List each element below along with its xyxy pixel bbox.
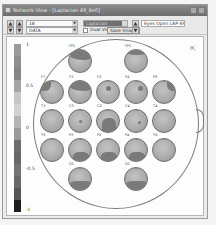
activation-region — [138, 121, 141, 124]
map-panel: 1 0.5 0 -0.5 -1 ⇱ FP1FP2F7F3FZF4F8T3C3CZ… — [6, 36, 204, 216]
nose-marker — [79, 167, 83, 169]
electrode-label: F4 — [125, 75, 129, 79]
electrode-label: T4 — [153, 104, 157, 108]
electrode-label: P4 — [125, 133, 129, 137]
topomap-c3[interactable] — [68, 109, 92, 133]
window-title: Network View - [Laplacian 49_9e0] — [13, 5, 100, 16]
topomap-t5[interactable] — [40, 138, 64, 162]
title-bar: Network View - [Laplacian 49_9e0] — [3, 5, 207, 16]
color-scale-segment — [14, 164, 21, 176]
data-combo[interactable]: DATA ▼ — [26, 27, 78, 34]
tick-label: 0.5 — [26, 83, 33, 88]
nose-marker — [135, 167, 139, 169]
down-arrow-icon[interactable]: ▼ — [132, 27, 139, 34]
activation-region — [106, 86, 111, 91]
info-display: Eyes Open LAP 49_9e0 — [141, 20, 185, 27]
topomap-fz[interactable] — [96, 80, 120, 104]
color-scale-segment — [14, 140, 21, 152]
ear-outline — [196, 109, 204, 133]
topomap-t6[interactable] — [152, 138, 176, 162]
topomap-o2[interactable] — [124, 167, 148, 191]
electrode-label: C4 — [125, 104, 130, 108]
electrode-label: O2 — [125, 162, 130, 166]
down-small-arrow-icon[interactable]: ▼ — [7, 27, 14, 34]
color-scale-segment — [14, 92, 21, 104]
close-button[interactable] — [198, 7, 205, 14]
up-small-arrow-icon[interactable]: ▲ — [7, 20, 14, 27]
electrode-label: F7 — [41, 75, 45, 79]
topomap-fp2[interactable] — [124, 49, 148, 73]
chevron-down-icon[interactable]: ▼ — [122, 21, 127, 26]
color-scale-bar — [14, 44, 21, 212]
electrode-label: P3 — [69, 133, 73, 137]
electrode-label: T5 — [41, 133, 45, 137]
electrode-label: FP1 — [69, 44, 75, 48]
activation-region — [101, 152, 117, 162]
electrode-label: F3 — [69, 75, 73, 79]
topomap-c4[interactable] — [124, 109, 148, 133]
tick-label: 1 — [26, 42, 29, 47]
topomap-f8[interactable] — [152, 80, 176, 104]
up-arrow-icon[interactable]: ▲ — [132, 20, 139, 27]
tick-label: -1 — [26, 207, 31, 212]
color-scale-segment — [14, 128, 21, 140]
activation-region — [69, 81, 92, 91]
nose-marker — [51, 138, 55, 140]
dual-view-checkbox[interactable] — [83, 28, 88, 33]
electrode-label: FP2 — [125, 44, 131, 48]
color-scale-segment — [14, 116, 21, 128]
activation-region — [138, 86, 143, 91]
color-scale-segment — [14, 200, 21, 212]
electrode-label: F8 — [153, 75, 157, 79]
topomap-p3[interactable] — [68, 138, 92, 162]
tick-label: -0.5 — [26, 166, 35, 171]
activation-region — [79, 120, 82, 123]
nose-marker — [107, 80, 111, 82]
topomap-t3[interactable] — [40, 109, 64, 133]
topomap-t4[interactable] — [152, 109, 176, 133]
nose-marker — [135, 80, 139, 82]
tick-label: 0 — [26, 125, 29, 130]
color-scale-segment — [14, 152, 21, 164]
minimize-button[interactable] — [190, 7, 197, 14]
app-icon — [5, 7, 11, 13]
down-arrow-icon[interactable]: ▼ — [16, 27, 23, 34]
chevron-down-icon[interactable]: ▼ — [72, 21, 77, 26]
nose-marker — [135, 138, 139, 140]
nose-marker — [163, 109, 167, 111]
topomap-pz[interactable] — [96, 138, 120, 162]
topomap-o1[interactable] — [68, 167, 92, 191]
color-scale-segment — [14, 104, 21, 116]
up-arrow-icon[interactable]: ▲ — [16, 20, 23, 27]
activation-region — [73, 152, 89, 162]
activation-region — [102, 118, 116, 133]
nose-marker — [51, 109, 55, 111]
color-scale-segment — [14, 176, 21, 188]
topomap-f3[interactable] — [68, 80, 92, 104]
topomap-p4[interactable] — [124, 138, 148, 162]
color-scale-segment — [14, 44, 21, 56]
color-scale-segment — [14, 68, 21, 80]
electrode-label: PZ — [97, 133, 102, 137]
chevron-down-icon[interactable]: ▼ — [72, 28, 77, 33]
toolbar: ▲ ▼ ▲ ▼ 18 ▼ DATA ▼ Laplacian ▼ Dual Vie… — [3, 16, 207, 35]
topomap-fp1[interactable] — [68, 49, 92, 73]
activation-region — [126, 181, 148, 191]
nose-marker — [79, 109, 83, 111]
topomap-f4[interactable] — [124, 80, 148, 104]
montage-combo[interactable]: Laplacian ▼ — [83, 20, 128, 27]
channel-combo[interactable]: 18 ▼ — [26, 20, 78, 27]
activation-region — [127, 50, 147, 55]
activation-region — [41, 81, 51, 91]
nose-marker — [51, 80, 55, 82]
electrode-label: T3 — [41, 104, 45, 108]
electrode-label: FZ — [97, 75, 101, 79]
topomap-f7[interactable] — [40, 80, 64, 104]
nose-marker — [163, 138, 167, 140]
electrode-label: CZ — [97, 104, 102, 108]
activation-region — [70, 181, 92, 191]
electrode-label: O1 — [69, 162, 74, 166]
cursor-icon: ⇱ — [190, 45, 196, 53]
network-view-window: Network View - [Laplacian 49_9e0] ▲ ▼ ▲ … — [2, 4, 208, 219]
topomap-cz[interactable] — [96, 109, 120, 133]
